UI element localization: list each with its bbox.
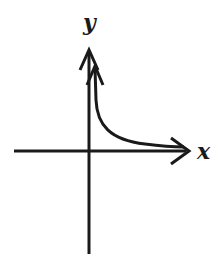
graph-canvas: y x	[0, 0, 220, 262]
x-axis	[14, 138, 189, 164]
x-axis-label: x	[196, 138, 211, 164]
function-curve	[87, 66, 184, 147]
y-axis-label: y	[82, 9, 98, 35]
